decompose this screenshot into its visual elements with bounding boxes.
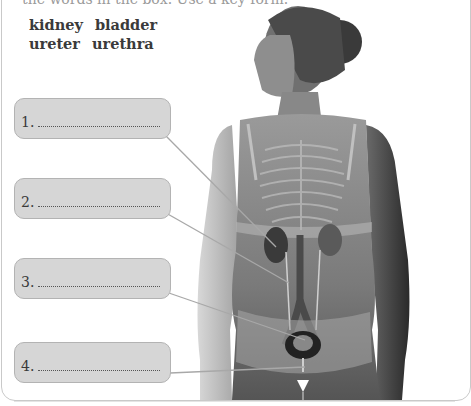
label-box-1[interactable]: 1. [14,98,171,139]
kidney-right [318,224,342,256]
label-number: 4. [21,358,34,374]
label-number: 2. [21,194,34,210]
answer-blank[interactable] [38,116,160,127]
answer-blank[interactable] [38,360,160,371]
label-number: 1. [21,114,34,130]
label-number: 3. [21,274,34,290]
kidney-left [264,227,288,263]
left-arm [198,125,241,400]
label-box-3[interactable]: 3. [14,258,171,299]
answer-blank[interactable] [38,196,160,207]
label-box-2[interactable]: 2. [14,178,171,219]
head [254,6,362,97]
answer-blank[interactable] [38,276,160,287]
label-box-4[interactable]: 4. [14,342,171,383]
